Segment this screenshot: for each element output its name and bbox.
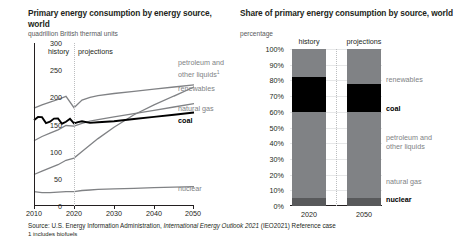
- right-chart-axis-units: percentage: [240, 30, 273, 38]
- bar-ytick-0: 0%: [254, 203, 284, 210]
- xtick-2020: 2020: [57, 210, 91, 217]
- left-chart-axis-units: quadrillion British thermal units: [28, 30, 118, 38]
- legend-item-petroleum: petroleum and other liquids: [386, 134, 442, 151]
- footnote: 1 includes biofuels: [28, 231, 77, 238]
- bar-ytick-100: 100%: [254, 46, 284, 53]
- bar-2050-segment-renewables: [347, 49, 381, 84]
- source-suffix: (IEO2021) Reference case: [259, 222, 336, 229]
- bar-ytick-50: 50%: [254, 125, 284, 132]
- ytick-150: 150: [32, 122, 62, 129]
- bar-2020-segment-nuclear: [292, 198, 326, 206]
- bar-2020-segment-coal: [292, 77, 326, 112]
- bar-ytick-20: 20%: [254, 172, 284, 179]
- right-chart-title: Share of primary energy consumption by s…: [240, 8, 468, 19]
- bar-2020[interactable]: [292, 49, 326, 206]
- legend-item-renewables: renewables: [386, 76, 470, 85]
- bar-history-projection-divider: [336, 49, 338, 206]
- bar-ytick-80: 80%: [254, 77, 284, 84]
- label-projections: projections: [78, 48, 113, 55]
- series-line-nuclear: [34, 187, 194, 193]
- xtick-2050: 2050: [176, 210, 210, 217]
- xtick-2010: 2010: [17, 210, 51, 217]
- bar-2050-segment-coal: [347, 84, 381, 112]
- bar-ytick-60: 60%: [254, 109, 284, 116]
- bar-group-label-projections: projections: [339, 38, 389, 45]
- series-label-nuclear: nuclear: [178, 185, 202, 194]
- bar-ytick-70: 70%: [254, 93, 284, 100]
- bar-2020-segment-renewables: [292, 49, 326, 77]
- ytick-50: 50: [32, 176, 62, 183]
- bar-ytick-10: 10%: [254, 187, 284, 194]
- bar-ytick-30: 30%: [254, 156, 284, 163]
- ytick-250: 250: [32, 67, 62, 74]
- series-label-renewables: renewables: [178, 85, 215, 94]
- bar-2020-segment-natural-gas: [292, 162, 326, 198]
- legend-item-natural-gas: natural gas: [386, 178, 470, 187]
- bar-xtick-2020: 2020: [287, 211, 331, 218]
- page-title: Primary energy consumption by energy sou…: [28, 8, 233, 29]
- legend-item-nuclear: nuclear: [386, 196, 470, 205]
- bar-2050-segment-nuclear: [347, 198, 381, 206]
- source-note: Source: U.S. Energy Information Administ…: [28, 222, 336, 230]
- label-history: history: [48, 48, 69, 55]
- bar-xtick-2050: 2050: [342, 211, 386, 218]
- series-label-coal: coal: [178, 117, 192, 126]
- xtick-2030: 2030: [97, 210, 131, 217]
- bar-ytick-90: 90%: [254, 62, 284, 69]
- series-label-natural-gas: natural gas: [178, 105, 214, 114]
- bar-plot-area: 100% 90% 80% 70% 60% 50% 40% 30% 20% 10%…: [290, 49, 382, 206]
- bar-group-label-history: history: [284, 38, 334, 45]
- series-label-petroleum-footnote: 1: [217, 69, 220, 75]
- legend-item-coal: coal: [386, 105, 470, 114]
- source-prefix: Source: U.S. Energy Information Administ…: [28, 222, 163, 229]
- ytick-100: 100: [32, 149, 62, 156]
- bar-2050-segment-natural-gas: [347, 165, 381, 198]
- bar-2020-segment-petroleum: [292, 112, 326, 162]
- source-publication: International Energy Outlook 2021: [163, 222, 259, 229]
- xtick-2040: 2040: [137, 210, 171, 217]
- line-plot-area: 300 250 200 150 100 50 0 2010 2020: [34, 43, 194, 206]
- bar-2050-segment-petroleum: [347, 112, 381, 165]
- history-projection-divider: [74, 43, 76, 206]
- bar-ytick-40: 40%: [254, 140, 284, 147]
- line-chart-panel: Primary energy consumption by energy sou…: [0, 0, 236, 244]
- ytick-200: 200: [32, 94, 62, 101]
- series-label-petroleum: petroleum and other liquids1: [178, 59, 236, 80]
- bar-2050[interactable]: [347, 49, 381, 206]
